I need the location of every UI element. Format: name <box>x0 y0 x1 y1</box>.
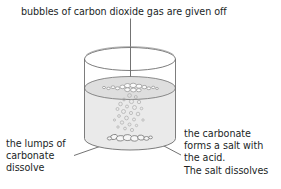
callout-lumps-dissolve-label: the lumps of carbonate dissolve <box>6 138 66 175</box>
beaker-rim-inner-lip <box>86 47 174 56</box>
beaker <box>85 47 176 150</box>
callout-salt-forms-label: the carbonate forms a salt with the acid… <box>184 128 268 177</box>
science-diagram: bubbles of carbon dioxide gas are given … <box>0 0 281 189</box>
beaker-rim-outer <box>85 48 176 71</box>
callout-bubbles-label: bubbles of carbon dioxide gas are given … <box>21 6 227 18</box>
liquid-surface <box>85 77 176 100</box>
